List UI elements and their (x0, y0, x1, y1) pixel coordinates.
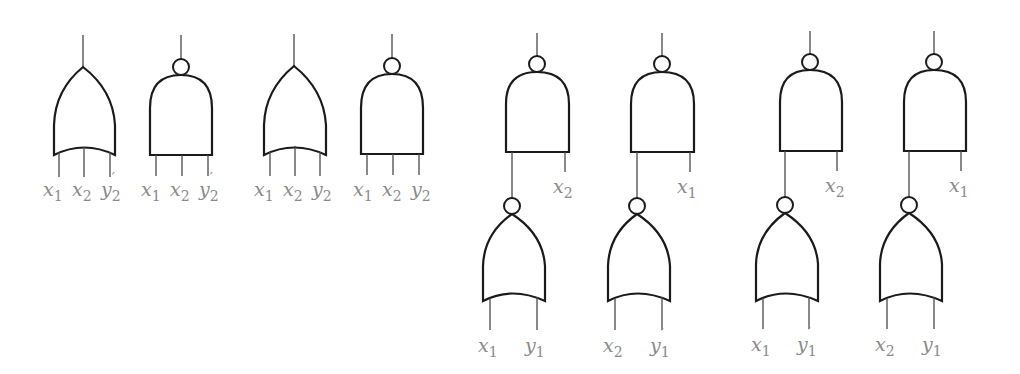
or-gate-3-labels: x1 x2 y2 (254, 178, 332, 204)
svg-text:y2: y2 (311, 178, 332, 204)
nand-gate-2 (150, 35, 212, 176)
or-gate-1-labels: x1 x2 y2′ (43, 170, 121, 204)
circuit-2: x1 x2 y1′ (603, 33, 697, 360)
svg-text:x1: x1 (353, 178, 373, 204)
svg-text:x1: x1 (43, 178, 63, 204)
svg-text:x2: x2 (72, 178, 92, 204)
svg-text:x2: x2 (283, 178, 303, 204)
svg-text:x2: x2 (875, 333, 895, 359)
svg-text:x1: x1 (254, 178, 274, 204)
svg-text:y1′: y1′ (649, 326, 670, 360)
svg-text:y1′: y1′ (796, 325, 817, 359)
circuit-4: x1 x2 y1 (875, 31, 969, 359)
circuit-4-top-input-label: x1 (949, 174, 969, 200)
or-gate-1 (54, 35, 115, 177)
svg-text:y1: y1 (524, 334, 545, 360)
svg-text:x2: x2 (603, 334, 623, 360)
svg-text:y2: y2 (410, 178, 431, 204)
svg-text:x1: x1 (478, 334, 498, 360)
circuit-3-top-input-label: x2 (825, 174, 845, 200)
circuit-1: x2 x1 y1 (478, 33, 573, 360)
svg-text:x1: x1 (751, 333, 771, 359)
svg-text:x1: x1 (141, 178, 161, 204)
nand-gate-4 (361, 34, 423, 175)
circuit-1-top-input-label: x2 (553, 175, 573, 201)
circuit-2-top-input-label: x1 (677, 175, 697, 201)
svg-text:y1: y1 (921, 333, 942, 359)
svg-text:x2: x2 (170, 178, 190, 204)
nand-gate-4-labels: x1 x2 y2 (353, 178, 431, 204)
svg-text:x2: x2 (382, 178, 402, 204)
circuit-3: x2 x1 y1′ (751, 31, 845, 359)
logic-diagram: x1 x2 y2′ x1 x2 y2′ x1 x2 y2 x1 (0, 0, 1020, 374)
or-gate-3 (264, 34, 326, 176)
nand-gate-2-labels: x1 x2 y2′ (141, 170, 219, 204)
